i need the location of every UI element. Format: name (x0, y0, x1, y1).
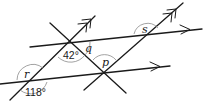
upper-parallel-line (30, 29, 202, 47)
angle-s-label: s (142, 23, 148, 36)
lower-parallel-arrow-icon (150, 62, 160, 71)
angle-r-label: r (24, 68, 30, 81)
transversal-right-line (84, 3, 183, 90)
angle-q-label: q (85, 42, 92, 55)
angle-r-arc (17, 64, 43, 80)
upper-parallel-arrow-icon (180, 25, 190, 34)
parallel-lines-diagram: 42° q p r 118° s (0, 0, 206, 101)
angle-118-label: 118° (25, 86, 46, 98)
diagram-canvas: 42° q p r 118° s (0, 0, 206, 101)
angle-p-label: p (102, 56, 109, 69)
angle-42-label: 42° (63, 49, 79, 61)
